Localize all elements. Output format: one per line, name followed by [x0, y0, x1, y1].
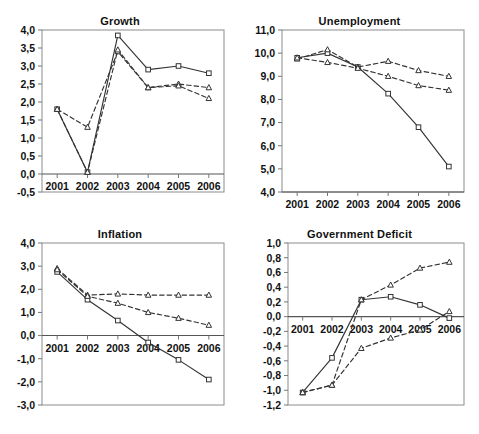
data-point-marker-square [176, 64, 181, 69]
x-tick-label: 2003 [346, 198, 370, 210]
x-tick-label: 2001 [45, 342, 69, 354]
data-point-marker-triangle [446, 87, 452, 92]
x-tick-label: 2001 [285, 198, 309, 210]
y-tick-label: 0,6 [266, 266, 281, 278]
y-tick-label: 8,0 [260, 93, 275, 105]
series-line-series-dashed-triangle-b [297, 58, 449, 90]
y-tick-label: 3,5 [20, 42, 35, 54]
y-tick-label: 6,0 [260, 140, 275, 152]
x-tick-label: 2002 [76, 180, 100, 192]
four-panel-chart-figure: Growth -0,50,00,51,01,52,02,53,03,54,020… [0, 0, 479, 434]
data-point-marker-triangle [385, 58, 391, 63]
y-tick-label: 3,0 [20, 260, 35, 272]
data-point-marker-triangle [417, 265, 423, 270]
y-tick-label: -0,5 [17, 186, 35, 198]
y-tick-label: 0,0 [20, 168, 35, 180]
y-tick-label: 0,8 [266, 252, 281, 264]
data-point-marker-square [330, 356, 335, 361]
y-tick-label: 7,0 [260, 116, 275, 128]
series-line-series-dashed-triangle-a [57, 52, 209, 128]
y-tick-label: 1,0 [20, 132, 35, 144]
x-tick-label: 2006 [197, 342, 221, 354]
x-tick-label: 2003 [106, 342, 130, 354]
chart-panel-unemployment: Unemployment 4,05,06,07,08,09,010,011,02… [240, 14, 479, 219]
data-point-marker-triangle [206, 322, 212, 327]
x-tick-label: 2002 [320, 323, 344, 335]
plot-area-government-deficit: -1,2-1,0-0,8-0,6-0,4-0,20,00,20,40,60,81… [240, 227, 479, 432]
y-tick-label: 1,0 [20, 306, 35, 318]
y-tick-label: 0,0 [266, 310, 281, 322]
x-tick-label: 2004 [136, 180, 160, 192]
y-tick-label: -3,0 [17, 399, 35, 411]
series-line-series-solid-square [297, 53, 449, 166]
y-tick-label: -0,8 [263, 369, 281, 381]
chart-panel-inflation: Inflation -3,0-2,0-1,00,01,02,03,04,0200… [0, 227, 240, 432]
data-point-marker-triangle [447, 308, 453, 313]
data-point-marker-square [447, 164, 452, 169]
y-tick-label: 10,0 [255, 47, 276, 59]
y-tick-label: 2,0 [20, 283, 35, 295]
data-point-marker-square [116, 318, 121, 323]
plot-area-unemployment: 4,05,06,07,08,09,010,011,020012002200320… [240, 14, 479, 219]
y-tick-label: 5,0 [260, 163, 275, 175]
y-tick-label: 4,0 [20, 24, 35, 36]
data-point-marker-triangle [54, 267, 60, 272]
y-tick-label: 0,5 [20, 150, 35, 162]
data-point-marker-square [146, 67, 151, 72]
y-tick-label: -2,0 [17, 376, 35, 388]
series-line-series-dashed-triangle-b [57, 270, 209, 326]
data-point-marker-triangle [206, 85, 212, 90]
data-point-marker-square [386, 91, 391, 96]
data-point-marker-square [146, 340, 151, 345]
plot-frame [42, 243, 224, 405]
data-point-marker-triangle [447, 259, 453, 264]
y-tick-label: 0,4 [266, 281, 281, 293]
y-tick-label: 1,5 [20, 114, 35, 126]
data-point-marker-triangle [115, 291, 121, 296]
data-point-marker-square [176, 358, 181, 363]
x-tick-label: 2005 [167, 180, 191, 192]
y-tick-label: 1,0 [266, 237, 281, 249]
series-line-series-solid-square [303, 297, 450, 393]
y-tick-label: -1,2 [263, 399, 281, 411]
y-tick-label: 4,0 [20, 237, 35, 249]
x-tick-label: 2004 [379, 323, 403, 335]
x-tick-label: 2004 [376, 198, 400, 210]
data-point-marker-triangle [416, 83, 422, 88]
x-tick-label: 2006 [197, 180, 221, 192]
data-point-marker-triangle [115, 300, 121, 305]
x-tick-label: 2006 [438, 323, 462, 335]
y-tick-label: 2,5 [20, 78, 35, 90]
x-tick-label: 2001 [45, 180, 69, 192]
y-tick-label: -0,2 [263, 325, 281, 337]
chart-panel-growth: Growth -0,50,00,51,01,52,02,53,03,54,020… [0, 14, 240, 219]
data-point-marker-triangle [145, 292, 151, 297]
data-point-marker-triangle [115, 47, 121, 52]
y-tick-label: -1,0 [263, 384, 281, 396]
data-point-marker-square [447, 316, 452, 321]
data-point-marker-triangle [85, 124, 91, 129]
data-point-marker-triangle [325, 47, 331, 52]
data-point-marker-triangle [388, 335, 394, 340]
plot-frame [282, 30, 464, 192]
data-point-marker-triangle [446, 73, 452, 78]
x-tick-label: 2002 [76, 342, 100, 354]
y-tick-label: -0,6 [263, 355, 281, 367]
data-point-marker-triangle [416, 68, 422, 73]
chart-panel-government-deficit: Government Deficit -1,2-1,0-0,8-0,6-0,4-… [240, 227, 479, 432]
data-point-marker-square [207, 377, 212, 382]
data-point-marker-triangle [176, 292, 182, 297]
y-tick-label: -1,0 [17, 353, 35, 365]
series-line-series-solid-square [57, 35, 209, 172]
data-point-marker-triangle [325, 59, 331, 64]
data-point-marker-triangle [176, 315, 182, 320]
data-point-marker-square [418, 303, 423, 308]
x-tick-label: 2005 [407, 198, 431, 210]
plot-area-inflation: -3,0-2,0-1,00,01,02,03,04,02001200220032… [0, 227, 240, 432]
y-tick-label: 0,2 [266, 296, 281, 308]
y-tick-label: -0,4 [263, 340, 281, 352]
x-tick-label: 2003 [106, 180, 130, 192]
data-point-marker-triangle [388, 282, 394, 287]
data-point-marker-triangle [145, 309, 151, 314]
x-tick-label: 2002 [316, 198, 340, 210]
